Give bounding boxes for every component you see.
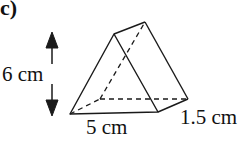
depth-label: 1.5 cm [180,107,237,128]
base-label: 5 cm [86,117,127,138]
visible-edges [70,22,188,114]
height-label: 6 cm [2,64,43,85]
height-arrow-icon [46,32,58,116]
